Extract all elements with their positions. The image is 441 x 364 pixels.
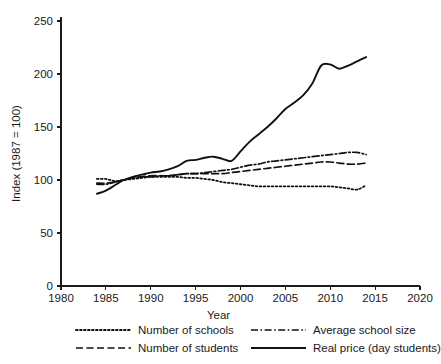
- legend-label-average-school-size: Average school size: [313, 324, 416, 336]
- x-axis: 198019851990199520002005201020152020: [48, 286, 433, 304]
- y-tick-label: 0: [47, 280, 53, 292]
- legend-label-number-of-students: Number of students: [138, 342, 239, 354]
- y-tick-label: 50: [40, 227, 53, 239]
- line-chart: 050100150200250 198019851990199520002005…: [0, 0, 441, 364]
- series-line-average-school-size: [97, 152, 366, 184]
- x-tick-label: 2010: [317, 292, 343, 304]
- x-tick-label: 2000: [228, 292, 254, 304]
- series-line-real-price-day-students: [97, 57, 366, 194]
- y-tick-label: 150: [34, 121, 53, 133]
- x-tick-label: 1980: [48, 292, 74, 304]
- axis-titles: YearIndex (1987 = 100): [10, 105, 230, 321]
- chart-legend: Number of schoolsAverage school sizeNumb…: [76, 324, 441, 354]
- series-line-number-of-schools: [97, 177, 366, 190]
- x-tick-label: 2020: [407, 292, 433, 304]
- x-tick-label: 1995: [183, 292, 209, 304]
- x-tick-label: 1990: [138, 292, 164, 304]
- x-tick-label: 2015: [362, 292, 388, 304]
- x-tick-label: 2005: [273, 292, 299, 304]
- y-tick-label: 250: [34, 15, 53, 27]
- y-axis: 050100150200250: [34, 15, 61, 292]
- legend-label-real-price-day-students: Real price (day students): [313, 342, 441, 354]
- chart-figure: 050100150200250 198019851990199520002005…: [0, 0, 441, 364]
- y-tick-label: 100: [34, 174, 53, 186]
- series-line-number-of-students: [97, 162, 366, 183]
- x-axis-title: Year: [207, 309, 230, 321]
- series-lines: [97, 57, 366, 194]
- legend-label-number-of-schools: Number of schools: [138, 324, 234, 336]
- y-tick-label: 200: [34, 68, 53, 80]
- y-axis-title: Index (1987 = 100): [10, 105, 22, 202]
- x-tick-label: 1985: [93, 292, 119, 304]
